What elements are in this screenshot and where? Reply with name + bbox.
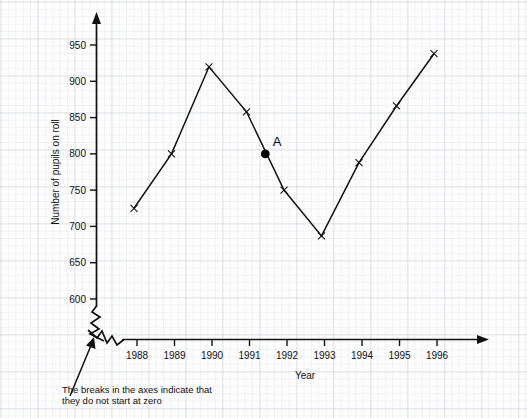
x-tick-label: 1993 [313, 350, 336, 361]
chart-page: 950 900 850 800 750 700 650 600 Number o… [0, 0, 527, 418]
y-axis-arrowhead [92, 12, 101, 24]
x-tick-label: 1992 [276, 350, 299, 361]
note-line-2: they do not start at zero [62, 395, 162, 406]
point-a-marker [261, 150, 270, 159]
data-point-1992 [281, 187, 288, 194]
x-axis-arrowhead [477, 335, 489, 344]
x-tick-label: 1996 [426, 350, 449, 361]
line-chart: 950 900 850 800 750 700 650 600 Number o… [0, 0, 527, 418]
y-tick-label: 600 [69, 294, 86, 305]
y-tick-label: 800 [69, 148, 86, 159]
y-tick-label: 900 [69, 76, 86, 87]
x-axis: 1988 1989 1990 1991 1992 1993 1994 1995 … [123, 335, 489, 381]
x-tick-label: 1988 [126, 350, 149, 361]
y-tick-label: 950 [69, 40, 86, 51]
note-line-1: The breaks in the axes indicate that [62, 384, 212, 395]
data-point-1993 [318, 232, 325, 239]
note-arrow-head [86, 337, 96, 349]
data-point-1989 [168, 150, 175, 157]
x-tick-label: 1991 [238, 350, 261, 361]
data-point-1991 [243, 108, 250, 115]
y-tick-label: 650 [69, 257, 86, 268]
data-point-1990 [206, 63, 213, 70]
y-tick-label: 700 [69, 221, 86, 232]
data-point-1988 [131, 205, 138, 212]
x-tick-label: 1995 [388, 350, 411, 361]
y-tick-label: 750 [69, 185, 86, 196]
annotation-point-a: A [261, 134, 282, 158]
series-line [134, 54, 434, 236]
series-markers [131, 50, 438, 239]
data-point-1994 [356, 159, 363, 166]
x-tick-label: 1989 [163, 350, 186, 361]
y-axis-ticks [90, 45, 97, 299]
y-tick-label: 850 [69, 112, 86, 123]
x-axis-ticks [137, 340, 437, 347]
x-tick-label: 1990 [201, 350, 224, 361]
x-tick-label: 1994 [351, 350, 374, 361]
y-axis-title: Number of pupils on roll [50, 119, 61, 225]
x-axis-title: Year [295, 370, 316, 381]
data-point-1995 [393, 102, 400, 109]
y-axis: 950 900 850 800 750 700 650 600 Number o… [50, 12, 101, 306]
x-axis-tick-labels: 1988 1989 1990 1991 1992 1993 1994 1995 … [126, 350, 449, 361]
point-a-label: A [273, 134, 282, 149]
data-point-1996 [431, 50, 438, 57]
data-series-pupils [131, 50, 438, 239]
y-axis-tick-labels: 950 900 850 800 750 700 650 600 [69, 40, 86, 305]
axis-break-note: The breaks in the axes indicate that the… [62, 337, 212, 406]
